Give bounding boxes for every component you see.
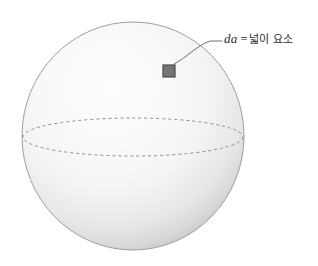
equals-sign: = [237, 32, 249, 46]
area-element-square [163, 65, 175, 77]
sphere-rim-shade [22, 22, 244, 250]
figure-canvas: da=넓이 요소 [0, 0, 318, 266]
area-element-description: 넓이 요소 [249, 33, 293, 46]
area-element-symbol: da [224, 31, 237, 46]
area-element-label: da=넓이 요소 [224, 32, 293, 47]
